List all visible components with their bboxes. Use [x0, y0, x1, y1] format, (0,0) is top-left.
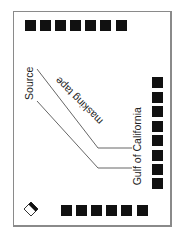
gulf-of-california-label: Gulf of California [132, 101, 143, 191]
source-label: Source [24, 66, 35, 100]
slide-label-icon [22, 200, 40, 218]
